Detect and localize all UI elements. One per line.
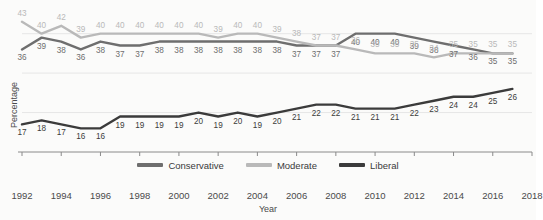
data-label: 39 (272, 25, 282, 34)
x-tick-label: 1992 (11, 190, 32, 201)
data-label: 38 (57, 46, 67, 55)
data-label: 35 (508, 40, 518, 49)
plot-area: 3639383638373738383838383838373737404040… (0, 6, 536, 158)
x-axis-tick-labels: 1992199419961998200020022004200620082010… (0, 190, 536, 204)
x-tick-label: 2004 (247, 190, 268, 201)
data-label: 37 (292, 50, 302, 59)
legend-label: Liberal (370, 160, 399, 171)
data-label: 36 (17, 53, 27, 62)
data-label: 37 (331, 33, 341, 42)
data-label: 35 (390, 40, 400, 49)
data-label: 20 (272, 117, 282, 126)
legend-item-moderate[interactable]: Moderate (246, 160, 317, 171)
data-label: 40 (174, 21, 184, 30)
x-tick-label: 2010 (364, 190, 385, 201)
data-label: 21 (292, 113, 302, 122)
x-tick-label: 2012 (404, 190, 425, 201)
data-label: 35 (410, 40, 420, 49)
data-label: 39 (37, 42, 47, 51)
data-label: 38 (194, 46, 204, 55)
data-label: 40 (155, 21, 165, 30)
data-label: 23 (429, 105, 439, 114)
data-label: 37 (312, 33, 322, 42)
x-tick-label: 2000 (168, 190, 189, 201)
data-label: 38 (292, 29, 302, 38)
x-tick-label: 2002 (208, 190, 229, 201)
x-tick-label: 1998 (129, 190, 150, 201)
data-label: 38 (272, 46, 282, 55)
y-axis-label: Percentage (9, 65, 19, 145)
x-tick-label: 2018 (521, 190, 542, 201)
data-label: 36 (469, 53, 479, 62)
data-label: 39 (76, 25, 86, 34)
legend-swatch (339, 163, 365, 167)
data-label: 34 (429, 44, 439, 53)
data-label: 22 (410, 109, 420, 118)
data-label: 18 (37, 124, 47, 133)
x-tick-label: 1994 (51, 190, 72, 201)
data-label: 35 (488, 40, 498, 49)
data-label: 40 (96, 21, 106, 30)
data-label: 37 (331, 50, 341, 59)
series-line-liberal (22, 89, 512, 128)
data-label: 36 (76, 53, 86, 62)
data-label: 25 (488, 97, 498, 106)
data-label: 38 (253, 46, 263, 55)
data-label: 19 (135, 121, 145, 130)
data-label: 35 (488, 57, 498, 66)
data-label: 40 (116, 21, 126, 30)
data-label: 16 (76, 132, 86, 141)
x-tick-label: 2014 (443, 190, 464, 201)
data-label: 24 (469, 101, 479, 110)
data-label: 35 (469, 40, 479, 49)
data-label: 38 (155, 46, 165, 55)
x-tick-label: 2006 (286, 190, 307, 201)
x-axis-label: Year (0, 204, 536, 214)
data-label: 21 (351, 113, 361, 122)
legend-item-liberal[interactable]: Liberal (339, 160, 399, 171)
data-label: 19 (214, 121, 224, 130)
data-label: 35 (371, 40, 381, 49)
data-label: 38 (214, 46, 224, 55)
legend-swatch (137, 163, 163, 167)
data-label: 38 (174, 46, 184, 55)
data-label: 26 (508, 93, 518, 102)
x-tick-label: 2008 (325, 190, 346, 201)
data-label: 35 (449, 40, 459, 49)
data-label: 42 (57, 13, 67, 22)
data-label: 37 (449, 50, 459, 59)
data-label: 19 (155, 121, 165, 130)
data-label: 16 (96, 132, 106, 141)
x-tick-label: 1996 (90, 190, 111, 201)
data-label: 40 (135, 21, 145, 30)
data-label: 40 (194, 21, 204, 30)
chart-legend: ConservativeModerateLiberal (0, 158, 536, 172)
legend-swatch (246, 163, 272, 167)
data-label: 38 (233, 46, 243, 55)
chart-svg: 3639383638373738383838383838373737404040… (0, 6, 536, 158)
data-label: 38 (96, 46, 106, 55)
data-label: 37 (312, 50, 322, 59)
data-label: 19 (116, 121, 126, 130)
data-label: 37 (116, 50, 126, 59)
data-label: 17 (57, 128, 67, 137)
data-label: 40 (233, 21, 243, 30)
data-label: 40 (37, 21, 47, 30)
data-label: 40 (253, 21, 263, 30)
data-label: 43 (17, 9, 27, 18)
data-label: 39 (214, 25, 224, 34)
legend-item-conservative[interactable]: Conservative (137, 160, 223, 171)
data-label: 36 (351, 36, 361, 45)
data-label: 37 (135, 50, 145, 59)
data-label: 22 (331, 109, 341, 118)
data-label: 21 (390, 113, 400, 122)
data-label: 21 (371, 113, 381, 122)
x-tick-label: 2016 (482, 190, 503, 201)
data-label: 19 (253, 121, 263, 130)
data-label: 19 (174, 121, 184, 130)
legend-label: Moderate (277, 160, 317, 171)
data-label: 22 (312, 109, 322, 118)
data-label: 20 (194, 117, 204, 126)
data-label: 20 (233, 117, 243, 126)
